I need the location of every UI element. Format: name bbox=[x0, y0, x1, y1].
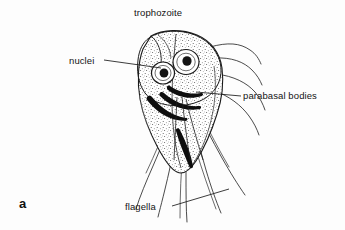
label-flagella: flagella bbox=[125, 201, 156, 212]
label-parabasal-bodies: parabasal bodies bbox=[243, 90, 317, 101]
label-nuclei: nuclei bbox=[69, 55, 94, 66]
right-nucleus bbox=[173, 50, 199, 75]
figure-panel: trophozoite nuclei parabasal bodies flag… bbox=[0, 0, 345, 230]
left-nucleus bbox=[152, 62, 175, 84]
label-trophozoite: trophozoite bbox=[134, 7, 182, 18]
trophozoite-illustration bbox=[0, 0, 345, 230]
panel-letter: a bbox=[19, 196, 26, 211]
